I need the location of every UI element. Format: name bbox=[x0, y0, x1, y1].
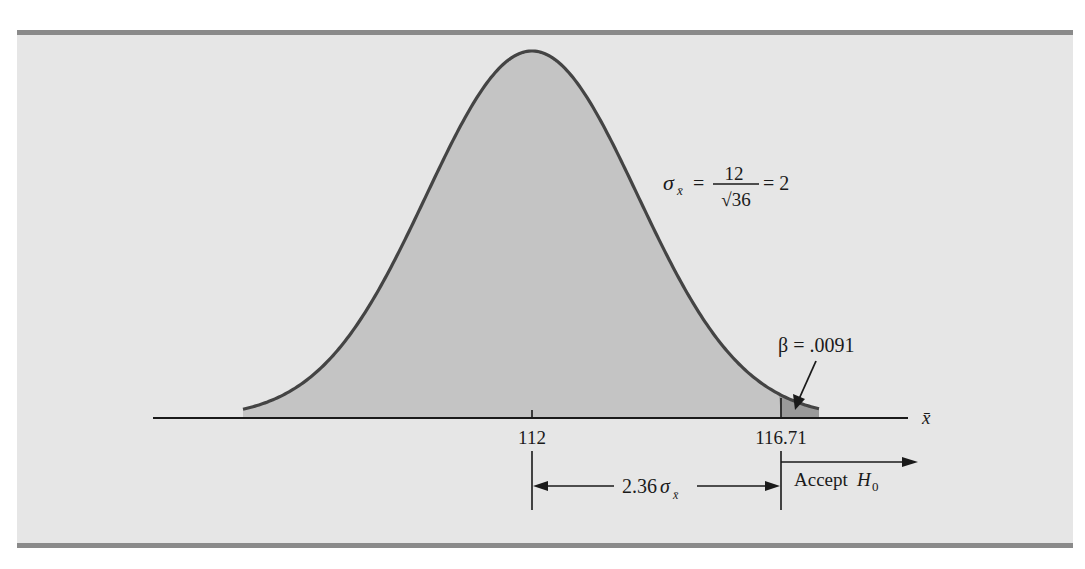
equals-two: = 2 bbox=[763, 172, 789, 194]
bottom-rule bbox=[17, 543, 1073, 548]
accept-sub: 0 bbox=[872, 479, 879, 494]
distance-value: 2.36 bbox=[622, 475, 657, 497]
equals-sign-1: = bbox=[693, 172, 704, 194]
distance-sigma-sub: x̄ bbox=[672, 488, 679, 502]
top-rule bbox=[17, 30, 1073, 35]
fraction-denominator: √36 bbox=[721, 189, 750, 210]
tick-label-mean: 112 bbox=[518, 427, 546, 448]
sigma-subscript: x̄ bbox=[676, 183, 683, 198]
fraction-numerator: 12 bbox=[725, 163, 744, 184]
distance-sigma: σ bbox=[660, 475, 671, 497]
tick-label-critical: 116.71 bbox=[755, 427, 807, 448]
accept-text: Accept bbox=[794, 469, 853, 490]
x-axis-label: x̄ bbox=[921, 407, 931, 428]
normal-distribution-figure: x̄ 112 116.71 σ x̄ = 12 √36 = 2 β = .009… bbox=[0, 0, 1085, 569]
beta-label: β = .0091 bbox=[778, 334, 854, 357]
sigma-symbol: σ bbox=[663, 170, 675, 195]
accept-h: H bbox=[856, 469, 872, 490]
